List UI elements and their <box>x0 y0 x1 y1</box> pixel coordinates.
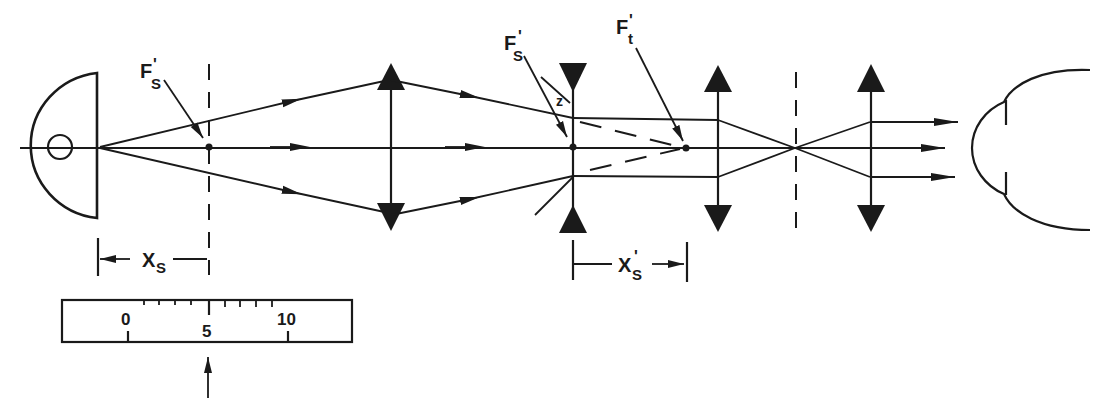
target-focus-dot <box>206 144 213 151</box>
scale-tick-0: 0 <box>121 310 130 329</box>
svg-text:S: S <box>513 47 523 64</box>
scale-tick-10: 10 <box>277 310 296 329</box>
svg-text:X: X <box>618 254 632 276</box>
svg-text:': ' <box>518 28 522 45</box>
collimating-lens <box>377 63 405 231</box>
test-lens-bottom-arrow-icon <box>559 205 587 233</box>
dimension-xs-prime: X ' S <box>573 240 687 283</box>
left-eye-pupil-icon <box>48 135 72 159</box>
left-eye-outline <box>31 73 97 218</box>
ft-focus-dot <box>683 145 690 152</box>
lens-top-arrow-icon <box>377 63 405 90</box>
svg-text:S: S <box>151 75 161 92</box>
relay-lens-top-arrow-icon <box>704 65 732 92</box>
svg-text:': ' <box>629 12 633 29</box>
dimension-xs: X S <box>100 249 207 276</box>
ray-upper-1 <box>100 101 292 147</box>
svg-text:z: z <box>556 93 563 109</box>
label-fs-prime-left: F ' S <box>140 56 203 138</box>
ray-lower-1 <box>100 148 292 192</box>
label-fs-prime-right: F ' S <box>504 28 567 137</box>
optical-diagram: F ' S F ' S z F ' t X S X ' S <box>0 0 1101 408</box>
eyepiece-bottom-arrow-icon <box>857 205 885 232</box>
measurement-scale: 0 5 10 <box>62 300 352 342</box>
svg-text:X: X <box>142 249 156 271</box>
svg-text:t: t <box>628 30 633 47</box>
svg-text:': ' <box>153 56 157 73</box>
left-eye <box>31 73 97 218</box>
svg-text:S: S <box>632 266 642 283</box>
svg-text:S: S <box>156 259 166 276</box>
svg-text:F: F <box>616 16 628 38</box>
label-z: z <box>541 77 570 109</box>
virtual-ray-upper <box>580 122 680 147</box>
test-lens-top-arrow-icon <box>559 63 587 92</box>
scale-tick-5: 5 <box>202 322 211 341</box>
eyepiece-top-arrow-icon <box>857 64 885 92</box>
svg-text:': ' <box>634 248 638 265</box>
label-ft-prime: F ' t <box>616 12 683 141</box>
virtual-ray-lower <box>590 149 680 170</box>
right-eye <box>972 70 1090 230</box>
relay-lens-bottom-arrow-icon <box>704 205 732 232</box>
lens-bottom-arrow-icon <box>377 203 405 231</box>
